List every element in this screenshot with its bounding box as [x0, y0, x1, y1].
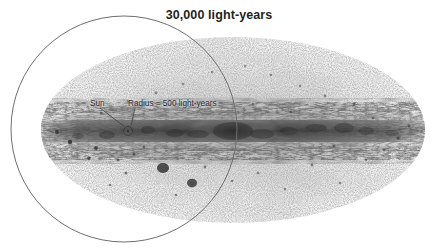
- lmc: [157, 163, 169, 173]
- sun-label: Sun: [90, 99, 105, 108]
- sky-map-canvas: [0, 0, 438, 249]
- galactic-bulge-core: [213, 122, 253, 140]
- galaxy-ellipse: [41, 37, 425, 223]
- smc: [187, 179, 197, 187]
- all-sky-map-figure: 30,000 light-years Sun Radius = 500 ligh…: [0, 0, 438, 249]
- radius-label: Radius = 500 light-years: [128, 99, 217, 108]
- sun-dot: [127, 130, 129, 132]
